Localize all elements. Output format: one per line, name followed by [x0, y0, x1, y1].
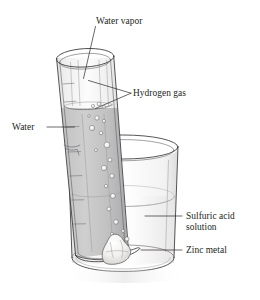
- label-zinc-metal: Zinc metal: [186, 245, 227, 255]
- label-sulfuric-acid-line2: solution: [186, 222, 217, 232]
- figure-container: Water vapor Hydrogen gas Water Sulfuric …: [0, 0, 260, 300]
- apparatus-diagram: Water vapor Hydrogen gas Water Sulfuric …: [0, 0, 260, 300]
- label-hydrogen-gas: Hydrogen gas: [133, 88, 186, 98]
- label-sulfuric-acid-line1: Sulfuric acid: [186, 211, 235, 221]
- label-water-vapor: Water vapor: [96, 16, 143, 26]
- test-tube: [50, 47, 140, 264]
- label-water: Water: [12, 122, 35, 132]
- table-shadow: [63, 269, 187, 283]
